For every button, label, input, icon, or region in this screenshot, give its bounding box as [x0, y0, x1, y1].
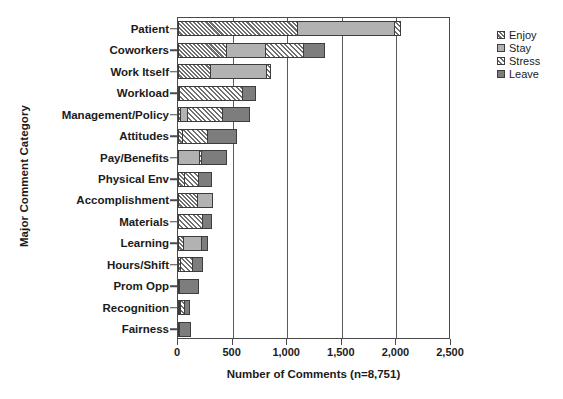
stacked-bar[interactable] [178, 236, 208, 251]
bar-segment-stress[interactable] [184, 172, 199, 187]
category-label: Attitudes [119, 130, 178, 142]
category-label: Physical Env [98, 173, 178, 185]
bar-segment-stay[interactable] [210, 64, 267, 79]
x-axis-tick [341, 339, 342, 345]
bar-row[interactable]: Management/Policy [178, 104, 451, 125]
stacked-bar[interactable] [178, 279, 199, 294]
bar-row[interactable]: Attitudes [178, 126, 451, 147]
legend-item[interactable]: Stay [497, 42, 540, 54]
stacked-bar[interactable] [178, 64, 271, 79]
category-label: Materials [119, 216, 178, 228]
y-axis-title: Major Comment Category [18, 66, 30, 286]
x-axis-tick-label: 2,500 [436, 346, 464, 358]
bar-segment-enjoy[interactable] [178, 21, 298, 36]
bar-segment-enjoy[interactable] [178, 193, 198, 208]
bar-row[interactable]: Materials [178, 211, 451, 232]
bar-segment-stress[interactable] [394, 21, 401, 36]
bar-segment-stress[interactable] [187, 107, 222, 122]
legend-swatch-stay-icon [497, 44, 505, 52]
stacked-bar[interactable] [178, 129, 237, 144]
stacked-bar[interactable] [178, 172, 212, 187]
bar-segment-stress[interactable] [179, 86, 243, 101]
stacked-bar[interactable] [178, 322, 191, 337]
stacked-bar[interactable] [178, 86, 256, 101]
bar-segment-stay[interactable] [178, 150, 200, 165]
bar-row[interactable]: Accomplishment [178, 190, 451, 211]
bars-group: PatientCoworkersWork ItselfWorkloadManag… [178, 18, 449, 338]
bar-segment-stress[interactable] [182, 129, 208, 144]
bar-segment-stress[interactable] [180, 257, 194, 272]
x-axis-tick-label: 500 [222, 346, 240, 358]
category-label: Management/Policy [62, 109, 178, 121]
bar-segment-enjoy[interactable] [178, 64, 211, 79]
x-axis-tick [395, 339, 396, 345]
x-axis-tick [450, 339, 451, 345]
bar-segment-leave[interactable] [179, 279, 199, 294]
bar-row[interactable]: Workload [178, 83, 451, 104]
bar-segment-stress[interactable] [266, 64, 271, 79]
category-label: Patient [131, 23, 178, 35]
x-axis-ticks: 05001,0001,5002,0002,500 [177, 339, 450, 349]
stacked-bar[interactable] [178, 257, 203, 272]
bar-row[interactable]: Recognition [178, 297, 451, 318]
bar-segment-leave[interactable] [198, 172, 212, 187]
bar-row[interactable]: Physical Env [178, 169, 451, 190]
bar-segment-stay[interactable] [297, 21, 395, 36]
bar-row[interactable]: Work Itself [178, 61, 451, 82]
bar-segment-stress[interactable] [265, 43, 304, 58]
category-label: Recognition [103, 302, 178, 314]
stacked-bar[interactable] [178, 21, 401, 36]
stacked-bar[interactable] [178, 214, 212, 229]
stacked-bar[interactable] [178, 300, 190, 315]
bar-segment-stay[interactable] [226, 43, 266, 58]
legend-item[interactable]: Stress [497, 55, 540, 67]
bar-segment-leave[interactable] [184, 300, 190, 315]
bar-segment-stay[interactable] [183, 236, 202, 251]
bar-segment-leave[interactable] [201, 236, 208, 251]
bar-segment-enjoy[interactable] [178, 43, 227, 58]
bar-segment-stay[interactable] [197, 193, 213, 208]
bar-row[interactable]: Coworkers [178, 40, 451, 61]
plot-area: PatientCoworkersWork ItselfWorkloadManag… [177, 17, 450, 339]
x-axis-tick-label: 0 [174, 346, 180, 358]
x-axis-tick [286, 339, 287, 345]
x-axis-tick [232, 339, 233, 345]
bar-row[interactable]: Patient [178, 18, 451, 39]
category-label: Coworkers [110, 44, 178, 56]
bar-segment-leave[interactable] [201, 150, 227, 165]
category-label: Prom Opp [113, 280, 178, 292]
stacked-bar[interactable] [178, 193, 213, 208]
bar-segment-leave[interactable] [179, 322, 190, 337]
legend-item[interactable]: Leave [497, 68, 540, 80]
legend: EnjoyStayStressLeave [497, 29, 540, 81]
x-axis-tick-label: 1,500 [327, 346, 355, 358]
bar-segment-leave[interactable] [192, 257, 203, 272]
bar-row[interactable]: Learning [178, 233, 451, 254]
legend-label: Leave [509, 68, 539, 80]
stacked-bar[interactable] [178, 43, 325, 58]
category-label: Workload [117, 87, 178, 99]
bar-row[interactable]: Pay/Benefits [178, 147, 451, 168]
bar-segment-leave[interactable] [222, 107, 250, 122]
bar-row[interactable]: Prom Opp [178, 276, 451, 297]
bar-segment-leave[interactable] [207, 129, 238, 144]
x-axis-tick-label: 1,000 [272, 346, 300, 358]
bar-row[interactable]: Hours/Shift [178, 254, 451, 275]
category-label: Learning [120, 237, 178, 249]
legend-item[interactable]: Enjoy [497, 29, 540, 41]
figure-container: Major Comment Category PatientCoworkersW… [0, 0, 563, 399]
category-label: Hours/Shift [107, 259, 178, 271]
stacked-bar[interactable] [178, 107, 250, 122]
x-axis-tick [177, 339, 178, 345]
bar-segment-leave[interactable] [303, 43, 325, 58]
legend-swatch-stress-icon [497, 57, 505, 65]
bar-segment-stress[interactable] [178, 214, 203, 229]
bar-segment-leave[interactable] [242, 86, 256, 101]
stacked-bar[interactable] [178, 150, 227, 165]
category-label: Fairness [122, 323, 178, 335]
x-axis-tick-label: 2,000 [382, 346, 410, 358]
bar-row[interactable]: Fairness [178, 319, 451, 340]
legend-label: Stay [509, 42, 531, 54]
bar-segment-leave[interactable] [202, 214, 212, 229]
legend-swatch-leave-icon [497, 70, 505, 78]
